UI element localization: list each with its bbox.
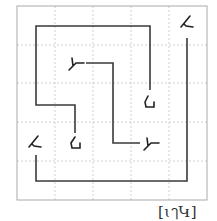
glyph-fork-icon	[144, 138, 159, 150]
path-inner-zigzag	[86, 63, 140, 143]
glyph-fork-icon	[69, 58, 84, 70]
glyph-hook-icon	[145, 96, 154, 107]
glyph-angle-icon	[29, 136, 41, 147]
glyph-hook-icon	[71, 137, 80, 148]
puzzle-label: [ɩๅԿ]	[158, 200, 197, 221]
frame	[17, 6, 207, 200]
path-bottom-hook	[36, 38, 187, 181]
grid	[17, 6, 207, 200]
glyph-angle-icon	[181, 16, 193, 27]
puzzle-diagram	[0, 0, 217, 221]
